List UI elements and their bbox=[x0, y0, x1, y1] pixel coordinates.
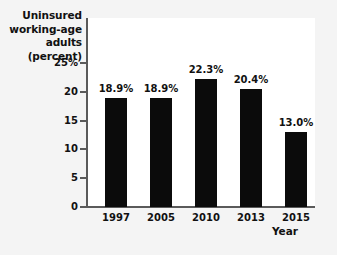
bar-2015 bbox=[285, 132, 307, 207]
bar-value-label-2005: 18.9% bbox=[136, 84, 186, 94]
x-tick-label-2015: 2015 bbox=[271, 213, 321, 223]
bar-value-label-2013: 20.4% bbox=[226, 75, 276, 85]
y-tick-mark-10 bbox=[80, 148, 86, 150]
y-tick-label-25: 25% bbox=[42, 58, 78, 68]
y-tick-label-20: 20 bbox=[42, 87, 78, 97]
y-tick-label-15: 15 bbox=[42, 116, 78, 126]
x-tick-label-2013: 2013 bbox=[226, 213, 276, 223]
bar-2013 bbox=[240, 89, 262, 207]
y-tick-mark-20 bbox=[80, 91, 86, 93]
y-axis-title-line-2: working-age bbox=[0, 23, 82, 37]
bar-value-label-1997: 18.9% bbox=[91, 84, 141, 94]
y-axis-line bbox=[86, 18, 88, 208]
y-tick-mark-0 bbox=[80, 206, 86, 208]
bar-1997 bbox=[105, 98, 127, 207]
y-tick-label-10: 10 bbox=[42, 144, 78, 154]
bar-2010 bbox=[195, 79, 217, 207]
bar-value-label-2015: 13.0% bbox=[271, 118, 321, 128]
y-tick-mark-5 bbox=[80, 177, 86, 179]
x-tick-label-1997: 1997 bbox=[91, 213, 141, 223]
y-tick-label-5: 5 bbox=[42, 173, 78, 183]
y-axis-title-line-1: Uninsured bbox=[0, 9, 82, 23]
y-tick-mark-15 bbox=[80, 120, 86, 122]
y-axis-title: Uninsured working-age adults (percent) bbox=[0, 9, 82, 63]
x-tick-label-2010: 2010 bbox=[181, 213, 231, 223]
bar-value-label-2010: 22.3% bbox=[181, 65, 231, 75]
x-tick-label-2005: 2005 bbox=[136, 213, 186, 223]
y-tick-mark-25 bbox=[80, 62, 86, 64]
bar-2005 bbox=[150, 98, 172, 207]
x-axis-title: Year bbox=[255, 225, 315, 237]
bar-chart-figure: Uninsured working-age adults (percent) 0… bbox=[0, 0, 337, 255]
y-tick-label-0: 0 bbox=[42, 202, 78, 212]
